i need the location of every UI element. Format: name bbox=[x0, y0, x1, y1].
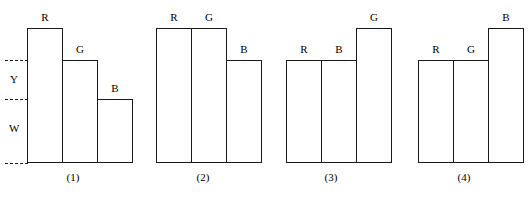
band-label-w: W bbox=[9, 123, 19, 134]
bar-g bbox=[191, 28, 227, 163]
bar-label-r: R bbox=[27, 12, 63, 23]
bar-label-r: R bbox=[286, 44, 322, 55]
bar-b bbox=[321, 60, 357, 163]
bar-label-g: G bbox=[356, 12, 392, 23]
bar-r bbox=[27, 28, 63, 163]
group-caption: (2) bbox=[183, 172, 223, 183]
band-label-y: Y bbox=[10, 74, 18, 85]
bar-label-b: B bbox=[226, 44, 262, 55]
bar-r bbox=[156, 28, 192, 163]
bar-g bbox=[62, 60, 98, 163]
bar-label-r: R bbox=[156, 12, 192, 23]
bar-r bbox=[418, 60, 454, 163]
bar-g bbox=[453, 60, 489, 163]
bar-label-g: G bbox=[453, 44, 489, 55]
bar-b bbox=[488, 28, 524, 163]
bar-label-b: B bbox=[321, 44, 357, 55]
group-caption: (4) bbox=[444, 172, 484, 183]
bar-label-b: B bbox=[97, 83, 133, 94]
dashed-level-line bbox=[5, 163, 28, 164]
bar-r bbox=[286, 60, 322, 163]
bar-label-r: R bbox=[418, 44, 454, 55]
bar-b bbox=[97, 99, 133, 163]
bar-label-g: G bbox=[191, 12, 227, 23]
group-caption: (1) bbox=[53, 172, 93, 183]
bar-label-g: G bbox=[62, 44, 98, 55]
group-caption: (3) bbox=[311, 172, 351, 183]
diagram-canvas: RGBYW(1)RGB(2)RBG(3)RGB(4) bbox=[0, 0, 529, 197]
bar-g bbox=[356, 28, 392, 163]
bar-b bbox=[226, 60, 262, 163]
bar-label-b: B bbox=[488, 12, 524, 23]
